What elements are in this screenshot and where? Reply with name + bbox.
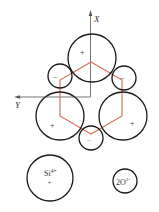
x-axis-label: X [93, 14, 100, 24]
y-axis-label: Y [15, 100, 21, 110]
sio2-structure-diagram: + + + − − − X Y Si4+ + 2O2− [0, 0, 159, 212]
x-axis-arrow-icon [89, 10, 93, 16]
y-axis-arrow-icon [14, 95, 20, 99]
legend-si-sign: + [48, 179, 52, 187]
sign-bottom-left: + [50, 121, 55, 130]
legend-o-label: 2O2− [116, 177, 131, 187]
sign-upper-right: − [120, 74, 125, 83]
large-ion-bottom-right [99, 92, 147, 140]
sign-bottom: − [87, 136, 92, 145]
sign-top: + [80, 48, 85, 57]
sign-bottom-right: + [130, 119, 135, 128]
legend-si-label: Si4+ [44, 168, 57, 178]
sign-upper-left: − [53, 73, 58, 82]
large-ion-top [68, 34, 116, 82]
legend-si-circle [27, 155, 73, 201]
